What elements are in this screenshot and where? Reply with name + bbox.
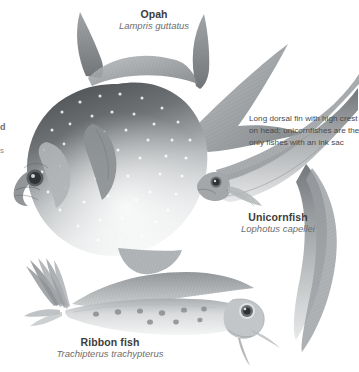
caption-line-2: on head; unicornfishes are the bbox=[249, 125, 359, 137]
fish-plate-artwork bbox=[0, 0, 359, 372]
label-opah: Opah Lampris guttatus bbox=[84, 8, 224, 32]
ribbonfish-scientific-name: Trachipterus trachypterus bbox=[22, 349, 198, 360]
ribbonfish-common-name: Ribbon fish bbox=[22, 336, 198, 348]
label-unicornfish: Unicornfish Lophotus capellei bbox=[208, 211, 348, 235]
unicornfish-scientific-name: Lophotus capellei bbox=[208, 224, 348, 235]
opah-common-name: Opah bbox=[84, 8, 224, 20]
ribbonfish-head bbox=[224, 299, 280, 366]
label-ribbonfish: Ribbon fish Trachipterus trachypterus bbox=[22, 336, 198, 360]
caption-unicornfish: Long dorsal fin with high crest on head;… bbox=[249, 113, 359, 149]
unicornfish-common-name: Unicornfish bbox=[208, 211, 348, 223]
opah-anal-fin bbox=[118, 248, 182, 274]
illustration-plate: Opah Lampris guttatus Unicornfish Lophot… bbox=[0, 0, 359, 372]
opah-dorsal-ridge bbox=[88, 56, 198, 86]
caption-line-3: only fishes with an ink sac bbox=[249, 137, 359, 149]
clipped-text-fragment-letter: d bbox=[0, 122, 6, 132]
clipped-text-fragment-mark: s bbox=[0, 146, 4, 155]
caption-line-1: Long dorsal fin with high crest bbox=[249, 113, 359, 125]
opah-scientific-name: Lampris guttatus bbox=[84, 21, 224, 32]
ribbonfish-caudal-fan bbox=[24, 258, 70, 326]
